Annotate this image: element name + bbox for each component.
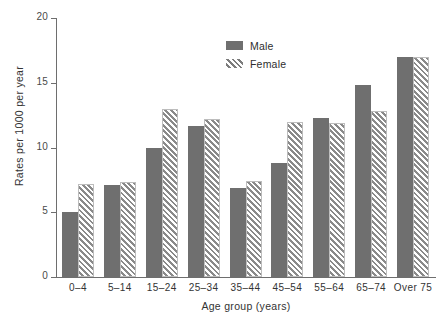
x-tick-label: 0–4 [57,282,99,293]
bar-female [287,122,303,277]
x-axis-title: Age group (years) [56,300,436,312]
bar-female [204,119,220,277]
bar-female [78,184,94,277]
bar-male [355,85,371,277]
bar-male [230,188,246,277]
chart-screenshot: 05101520 0–45–1415–2425–3435–4445–5455–6… [0,0,448,329]
legend-label-female: Female [250,58,286,70]
bar-male [188,126,204,278]
x-tick-label: 15–24 [141,282,183,293]
x-tick-label: 45–54 [266,282,308,293]
legend-swatch-female-icon [226,59,243,68]
bar-male [146,148,162,278]
bar-female [246,181,262,277]
bar-male [397,57,413,277]
legend-swatch-male-icon [226,41,243,50]
bar-male [313,118,329,277]
x-tick-label: 35–44 [225,282,267,293]
chart-legend: Male Female [226,38,286,74]
bar-female [329,123,345,277]
bar-male [271,163,287,277]
x-tick-label: 25–34 [183,282,225,293]
y-tick-mark [51,148,56,149]
y-tick-label: 20 [8,11,48,22]
x-axis-line [56,277,436,278]
bar-female [371,111,387,277]
legend-item-male: Male [226,38,286,53]
y-tick-mark [51,212,56,213]
y-tick-label: 0 [8,270,48,281]
x-tick-label: 55–64 [308,282,350,293]
legend-label-male: Male [250,40,274,52]
y-axis-title: Rates per 1000 per year [13,31,25,221]
bar-female [120,182,136,277]
legend-item-female: Female [226,56,286,71]
bar-male [104,185,120,277]
y-tick-mark [51,18,56,19]
bar-female [413,57,429,277]
x-tick-label: Over 75 [392,282,434,293]
x-tick-label: 65–74 [350,282,392,293]
bar-male [62,212,78,277]
y-tick-mark [51,277,56,278]
bar-female [162,109,178,277]
y-tick-mark [51,83,56,84]
x-tick-label: 5–14 [99,282,141,293]
